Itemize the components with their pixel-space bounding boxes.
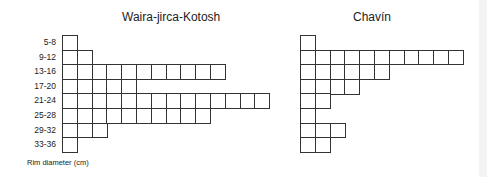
unit-square [106, 79, 122, 95]
unit-square [121, 108, 137, 124]
unit-square [433, 50, 449, 66]
unit-square [359, 64, 375, 80]
unit-square [330, 50, 346, 66]
unit-square [92, 64, 108, 80]
unit-square [315, 64, 331, 80]
unit-square [166, 108, 182, 124]
unit-square [448, 50, 464, 66]
category-label: 21-24 [16, 95, 56, 105]
category-label: 29-32 [16, 125, 56, 135]
category-label: 13-16 [16, 66, 56, 76]
category-label: 9-12 [16, 52, 56, 62]
unit-square [240, 93, 256, 109]
unit-square [300, 79, 316, 95]
unit-square [106, 93, 122, 109]
unit-square [195, 93, 211, 109]
unit-square [121, 93, 137, 109]
unit-square [300, 93, 316, 109]
unit-square [195, 108, 211, 124]
unit-square [77, 64, 93, 80]
unit-square [62, 93, 78, 109]
unit-square [300, 50, 316, 66]
unit-square [315, 137, 331, 153]
unit-square [62, 123, 78, 139]
unit-square [151, 108, 167, 124]
axis-title: Rim diameter (cm) [27, 158, 89, 167]
unit-square [92, 108, 108, 124]
unit-square [136, 93, 152, 109]
unit-square [315, 123, 331, 139]
unit-square [374, 50, 390, 66]
unit-square [151, 64, 167, 80]
unit-square [210, 93, 226, 109]
unit-square [315, 79, 331, 95]
unit-square [300, 35, 316, 51]
unit-square [62, 50, 78, 66]
unit-square [92, 123, 108, 139]
unit-square [62, 64, 78, 80]
unit-square [106, 108, 122, 124]
unit-square [254, 93, 270, 109]
unit-square [300, 137, 316, 153]
unit-square [404, 50, 420, 66]
unit-square [166, 93, 182, 109]
unit-square [225, 93, 241, 109]
unit-square [300, 123, 316, 139]
chart-title-waira-jirca-kotosh: Waira-jirca-Kotosh [122, 10, 220, 24]
unit-square [359, 50, 375, 66]
unit-square [330, 123, 346, 139]
unit-square [62, 137, 78, 153]
unit-square [77, 93, 93, 109]
unit-square [62, 35, 78, 51]
unit-square [344, 64, 360, 80]
unit-square [180, 64, 196, 80]
unit-square [180, 93, 196, 109]
unit-square [136, 64, 152, 80]
unit-square [344, 50, 360, 66]
unit-square [136, 108, 152, 124]
unit-square [344, 79, 360, 95]
unit-square [330, 79, 346, 95]
unit-square [77, 123, 93, 139]
unit-square [418, 50, 434, 66]
unit-square [77, 108, 93, 124]
page-edge [479, 0, 487, 177]
unit-square [300, 64, 316, 80]
category-label: 33-36 [16, 139, 56, 149]
unit-square [166, 64, 182, 80]
unit-square [62, 108, 78, 124]
unit-square [330, 64, 346, 80]
unit-square [374, 64, 390, 80]
unit-square [92, 79, 108, 95]
unit-square [121, 79, 137, 95]
unit-square [210, 64, 226, 80]
unit-square [300, 108, 316, 124]
category-label: 25-28 [16, 110, 56, 120]
category-label: 17-20 [16, 81, 56, 91]
unit-square [315, 50, 331, 66]
unit-square [180, 108, 196, 124]
chart-title-chavin: Chavín [353, 10, 391, 24]
unit-square [389, 50, 405, 66]
unit-square [151, 93, 167, 109]
unit-square [315, 93, 331, 109]
unit-square [77, 50, 93, 66]
unit-square [62, 79, 78, 95]
unit-square [121, 64, 137, 80]
category-label: 5-8 [16, 37, 56, 47]
unit-square [106, 64, 122, 80]
unit-square [92, 93, 108, 109]
unit-square [195, 64, 211, 80]
unit-square [77, 79, 93, 95]
